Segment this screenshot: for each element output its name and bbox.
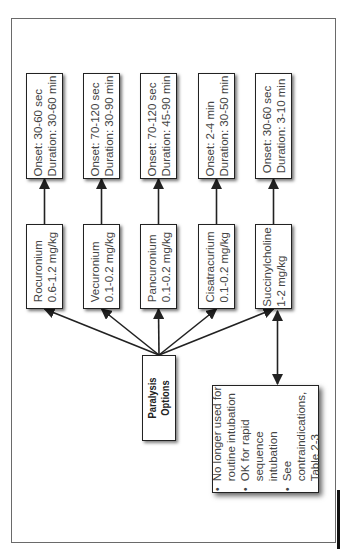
note-item: • Seecontraindications,Table 2-3: [280, 387, 322, 492]
onset-text: Onset: 30-60 sec: [31, 76, 45, 177]
arrow-root-to-succinylcholine: [159, 309, 274, 355]
arrow-root-to-rocuronium: [45, 309, 160, 355]
root-title-line-2: Options: [159, 377, 172, 418]
note-text: OK for rapid: [238, 419, 252, 481]
bullet: •: [280, 481, 322, 491]
duration-text: Duration: 45-90 min: [159, 76, 173, 177]
arrow-root-to-vecuronium: [102, 309, 160, 355]
drug-name: Vecuronium: [88, 231, 102, 301]
note-list: • No longer used forroutine intubation •…: [210, 387, 322, 492]
drug-dose: 1-2 mg/kg: [274, 227, 288, 306]
drug-box-succinylcholine: Succinylcholine1-2 mg/kg: [255, 224, 292, 309]
duration-text: Duration: 30-50 min: [217, 76, 231, 177]
drug-box-rocuronium: Rocuronium0.6-1.2 mg/kg: [26, 224, 63, 309]
onset-duration-box-rocuronium: Onset: 30-60 secDuration: 30-60 min: [26, 73, 63, 179]
drug-dose: 0.1-0.2 mg/kg: [217, 231, 231, 302]
onset-duration-box-pancuronium: Onset: 70-120 secDuration: 45-90 min: [140, 73, 177, 179]
drug-name: Pancuronium: [145, 231, 159, 301]
bullet: •: [210, 481, 238, 491]
drug-box-cisatracurium: Cisatracurium0.1-0.2 mg/kg: [198, 224, 235, 309]
succinylcholine-note-box: • No longer used forroutine intubation •…: [212, 385, 319, 493]
arrow-root-to-cisatracurium: [159, 309, 217, 355]
onset-text: Onset: 30-60 sec: [260, 79, 274, 174]
onset-duration-box-vecuronium: Onset: 70-120 secDuration: 30-90 min: [83, 73, 120, 179]
note-text: routine intubation: [224, 387, 238, 482]
note-text: See: [280, 392, 294, 482]
note-text: No longer used for: [210, 387, 224, 482]
duration-text: Duration: 30-90 min: [102, 76, 116, 177]
paralysis-options-box: ParalysisOptions: [142, 355, 176, 441]
drug-name: Rocuronium: [31, 231, 45, 301]
note-item: • OK for rapidsequenceintubation: [238, 387, 280, 492]
drug-dose: 0.6-1.2 mg/kg: [45, 231, 59, 301]
duration-text: Duration: 3-10 min: [274, 79, 288, 174]
note-text: intubation: [266, 419, 280, 481]
duration-text: Duration: 30-60 min: [45, 76, 59, 177]
onset-duration-box-succinylcholine: Onset: 30-60 secDuration: 3-10 min: [255, 73, 292, 179]
drug-box-vecuronium: Vecuronium0.1-0.2 mg/kg: [83, 224, 120, 309]
drug-name: Succinylcholine: [260, 227, 274, 306]
note-text: contraindications,: [294, 392, 308, 482]
drug-dose: 0.1-0.2 mg/kg: [102, 231, 116, 301]
root-title-line-1: Paralysis: [146, 377, 159, 418]
onset-text: Onset: 2-4 min: [203, 76, 217, 177]
note-text: Table 2-3: [308, 392, 322, 482]
drug-name: Cisatracurium: [203, 231, 217, 302]
onset-text: Onset: 70-120 sec: [88, 76, 102, 177]
note-item: • No longer used forroutine intubation: [210, 387, 238, 492]
drug-dose: 0.1-0.2 mg/kg: [159, 231, 173, 301]
onset-text: Onset: 70-120 sec: [145, 76, 159, 177]
arrow-root-to-pancuronium: [159, 309, 160, 355]
note-text: sequence: [252, 419, 266, 481]
onset-duration-box-cisatracurium: Onset: 2-4 minDuration: 30-50 min: [198, 73, 235, 179]
bullet: •: [238, 481, 280, 491]
drug-box-pancuronium: Pancuronium0.1-0.2 mg/kg: [140, 224, 177, 309]
